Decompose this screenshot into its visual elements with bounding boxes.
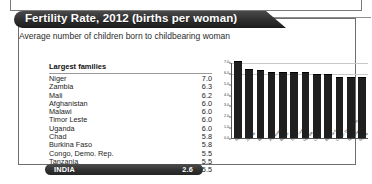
table-row: Niger7.0 bbox=[49, 75, 212, 83]
bar bbox=[324, 74, 332, 138]
ribbon-tail-line bbox=[266, 17, 371, 18]
bar bbox=[358, 77, 366, 138]
table-row: Afghanistan6.0 bbox=[49, 100, 212, 108]
fertility-bar-chart: 0.01.02.03.04.05.06.07.0 NigerZambiaMali… bbox=[218, 60, 370, 160]
table-divider bbox=[49, 73, 212, 74]
largest-families-table: Largest families Niger7.0Zambia6.3Mali6.… bbox=[49, 62, 212, 175]
title-ribbon: Fertility Rate, 2012 (births per woman) bbox=[14, 11, 314, 28]
y-axis-ticks: 0.01.02.03.04.05.06.07.0 bbox=[218, 60, 231, 139]
preceding-panel-edge bbox=[10, 0, 362, 11]
bar bbox=[234, 61, 242, 138]
india-value: 2.6 bbox=[182, 165, 193, 174]
bar bbox=[290, 72, 298, 138]
india-label: INDIA bbox=[54, 165, 75, 174]
bar bbox=[313, 74, 321, 138]
table-header: Largest families bbox=[49, 62, 212, 73]
subtitle: Average number of children born to child… bbox=[19, 31, 230, 41]
table-row: Uganda6.0 bbox=[49, 125, 212, 133]
page-title: Fertility Rate, 2012 (births per woman) bbox=[25, 12, 237, 24]
table-row: Zambia6.3 bbox=[49, 83, 212, 91]
x-tick-label: Mali bbox=[258, 136, 265, 143]
table-body: Niger7.0Zambia6.3Mali6.2Afghanistan6.0Ma… bbox=[49, 75, 212, 175]
bar bbox=[245, 69, 253, 138]
row-value: 5.5 bbox=[202, 166, 212, 174]
bar bbox=[257, 70, 265, 138]
x-axis-labels: NigerZambiaMaliAfghanistanMalawiTimor Le… bbox=[233, 140, 370, 160]
india-highlight-row: INDIA 2.6 bbox=[45, 164, 203, 175]
bar bbox=[268, 72, 276, 138]
